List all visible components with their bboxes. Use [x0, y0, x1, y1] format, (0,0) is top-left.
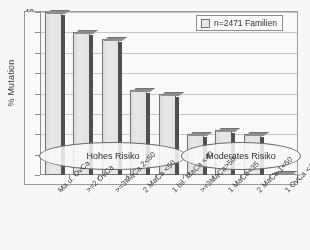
- bar-top-face: [216, 128, 240, 132]
- bar-top-face: [245, 132, 269, 136]
- chart-page: % Mutation 0510152025303540 Hohes Risiko…: [0, 0, 310, 250]
- y-axis-tick-mark: [35, 53, 40, 54]
- y-axis-tick-mark: [35, 175, 40, 176]
- y-axis-tick-mark: [35, 134, 40, 135]
- square-swatch-icon: [201, 19, 210, 28]
- chart-legend: n=2471 Familien: [196, 15, 283, 31]
- y-axis-tick-mark: [35, 94, 40, 95]
- bar-top-face: [188, 132, 212, 136]
- bar-top-face: [46, 10, 70, 14]
- legend-entry-label: n=2471 Familien: [214, 18, 277, 28]
- y-axis-tick-mark: [35, 73, 40, 74]
- bar-top-face: [131, 88, 155, 92]
- y-axis-tick-mark: [35, 32, 40, 33]
- bar-top-face: [160, 92, 184, 96]
- bar-top-face: [103, 37, 127, 41]
- y-axis-tick-mark: [35, 114, 40, 115]
- bar-top-face: [74, 30, 98, 34]
- y-axis-tick-mark: [35, 12, 40, 13]
- x-axis-category-labels: Ma u. OvCa>=2 OvCa>=3MaCa 2<502 MaCa <50…: [0, 186, 310, 250]
